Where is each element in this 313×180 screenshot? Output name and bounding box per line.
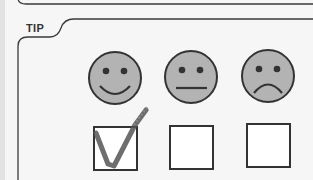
sad-checkbox[interactable]	[247, 124, 290, 167]
top-box-border	[18, 0, 313, 4]
neutral-checkbox[interactable]	[170, 126, 213, 169]
neutral-face-icon[interactable]	[165, 51, 217, 103]
tip-label: TIP	[26, 22, 44, 34]
tip-frame	[0, 0, 313, 180]
sad-face-icon[interactable]	[242, 50, 294, 102]
happy-face-icon[interactable]	[89, 52, 141, 104]
